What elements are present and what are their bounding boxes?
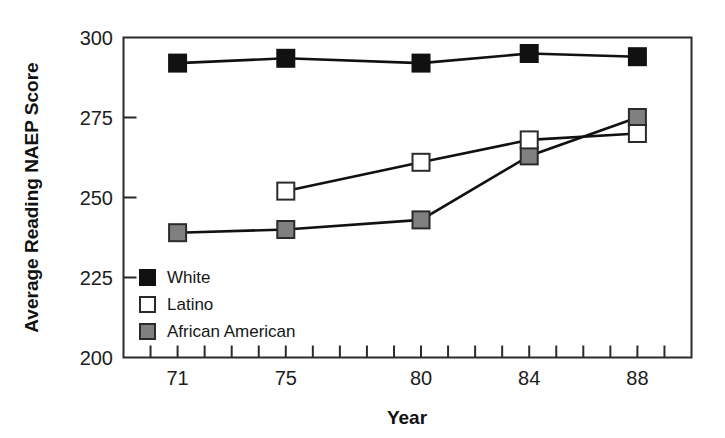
- y-tick-label-250: 250: [80, 187, 113, 209]
- data-point-african-american-80: [413, 211, 430, 228]
- y-tick-label-225: 225: [80, 267, 113, 289]
- data-point-african-american-84: [521, 147, 538, 164]
- legend-swatch-white: [140, 270, 155, 285]
- y-tick-labels: 300 275 250 225 200: [80, 27, 113, 369]
- data-point-white-80: [413, 55, 430, 72]
- data-point-white-88: [629, 48, 646, 65]
- chart-figure: 300 275 250 225 200: [0, 0, 725, 438]
- y-tick-label-300: 300: [80, 27, 113, 49]
- data-point-latino-88: [629, 125, 646, 142]
- legend-label-latino: Latino: [167, 295, 213, 314]
- data-point-white-84: [521, 45, 538, 62]
- data-point-african-american-88: [629, 109, 646, 126]
- data-point-latino-75: [277, 183, 294, 200]
- legend-label-african-american: African American: [167, 322, 296, 341]
- x-axis-title: Year: [387, 407, 428, 428]
- data-point-african-american-71: [169, 224, 186, 241]
- data-point-african-american-75: [277, 221, 294, 238]
- x-tick-labels: 71 75 80 84 88: [166, 367, 648, 389]
- y-tick-label-275: 275: [80, 107, 113, 129]
- data-point-latino-84: [521, 131, 538, 148]
- legend-swatch-latino: [140, 297, 155, 312]
- x-tick-label-80: 80: [410, 367, 432, 389]
- data-point-latino-80: [413, 154, 430, 171]
- x-tick-label-88: 88: [626, 367, 648, 389]
- data-point-white-75: [277, 50, 294, 67]
- legend-label-white: White: [167, 268, 210, 287]
- legend-swatch-african-american: [140, 324, 155, 339]
- y-axis-title: Average Reading NAEP Score: [21, 62, 42, 332]
- y-tick-label-200: 200: [80, 347, 113, 369]
- x-tick-label-75: 75: [275, 367, 297, 389]
- data-point-white-71: [169, 55, 186, 72]
- x-tick-label-71: 71: [166, 367, 188, 389]
- x-tick-label-84: 84: [518, 367, 540, 389]
- reading-naep-score-line-chart: 300 275 250 225 200: [0, 0, 725, 438]
